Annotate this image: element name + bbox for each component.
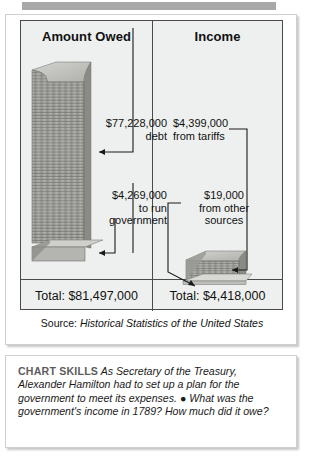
callout-other-sources: $19,000 from other sources <box>183 189 265 227</box>
column-divider <box>152 21 153 311</box>
callout-tariffs: $4,399,000 from tariffs <box>173 117 265 142</box>
total-amount-owed: Total: $81,497,000 <box>21 284 152 308</box>
callout-other-amount: $19,000 <box>204 189 244 201</box>
chart-table: Amount Owed Income Total: $81,497,000 To… <box>20 20 283 310</box>
callout-tariffs-label: from tariffs <box>173 130 225 142</box>
column-header-amount-owed: Amount Owed <box>21 29 152 44</box>
chart-panel: Amount Owed Income Total: $81,497,000 To… <box>5 14 297 345</box>
source-title: Historical Statistics of the United Stat… <box>80 317 263 329</box>
source-attribution: Source: Historical Statistics of the Uni… <box>6 317 298 329</box>
chart-skills-bullet: ● <box>180 392 186 404</box>
callout-debt-label: debt <box>146 130 167 142</box>
callout-debt-amount: $77,228,000 <box>106 117 167 129</box>
chart-skills-heading: CHART SKILLS <box>18 365 98 377</box>
callout-government-label-2: government <box>109 214 167 226</box>
callout-other-label-2: sources <box>205 214 244 226</box>
callout-government-amount: $4,269,000 <box>112 189 167 201</box>
totals-separator-rule <box>21 279 282 280</box>
column-header-income: Income <box>153 29 282 44</box>
callout-other-label-1: from other <box>199 202 249 214</box>
page-heading-strip <box>22 2 276 10</box>
callout-debt: $77,228,000 debt <box>82 117 167 142</box>
chart-skills-text: CHART SKILLS As Secretary of the Treasur… <box>18 365 284 419</box>
callout-government-label-1: to run <box>139 202 167 214</box>
total-income: Total: $4,418,000 <box>153 284 282 308</box>
source-prefix: Source: <box>41 317 77 329</box>
callout-government: $4,269,000 to run government <box>78 189 167 227</box>
chart-skills-panel: CHART SKILLS As Secretary of the Treasur… <box>5 355 297 448</box>
callout-tariffs-amount: $4,399,000 <box>173 117 228 129</box>
